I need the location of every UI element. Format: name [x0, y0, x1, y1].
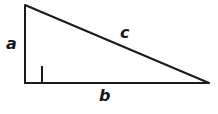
hypotenuse-line-c — [25, 5, 209, 83]
side-label-c: c — [120, 25, 129, 41]
side-label-a: a — [6, 36, 17, 52]
side-label-b: b — [99, 88, 110, 104]
right-angle-marker-icon — [25, 66, 42, 83]
right-triangle-figure: a b c — [0, 0, 218, 114]
